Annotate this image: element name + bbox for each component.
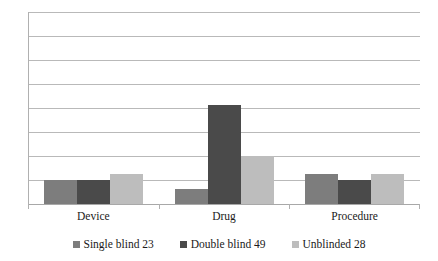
legend-label: Unblinded 28 [303,237,366,251]
bar[interactable] [77,180,110,204]
x-axis-label-drug: Drug [159,208,290,224]
legend-item[interactable]: Single blind 23 [73,237,154,251]
bar[interactable] [241,156,274,204]
bar[interactable] [371,174,404,204]
legend-swatch-icon [292,241,299,248]
legend-item[interactable]: Double blind 49 [180,237,266,251]
bar-chart-figure: DeviceDrugProcedure Single blind 23Doubl… [0,0,438,261]
bars-layer [28,12,420,204]
bar[interactable] [110,174,143,204]
bar[interactable] [338,180,371,204]
bar[interactable] [175,189,208,204]
x-axis-label-device: Device [28,208,159,224]
bar[interactable] [208,105,241,204]
bar[interactable] [305,174,338,204]
bar-group [175,12,274,204]
x-axis-label-procedure: Procedure [289,208,420,224]
bar[interactable] [44,180,77,204]
legend-swatch-icon [73,241,80,248]
legend-label: Double blind 49 [191,237,266,251]
bar-group [305,12,404,204]
legend-swatch-icon [180,241,187,248]
x-axis-labels: DeviceDrugProcedure [28,208,420,228]
bar-group [44,12,143,204]
legend-label: Single blind 23 [84,237,154,251]
legend-item[interactable]: Unblinded 28 [292,237,366,251]
chart-legend: Single blind 23Double blind 49Unblinded … [0,234,438,254]
